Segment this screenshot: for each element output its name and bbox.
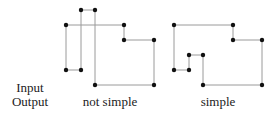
simple-caption: simple — [201, 94, 236, 109]
vertex-dot — [201, 83, 205, 87]
output-label: Output — [12, 94, 49, 109]
vertex-dot — [122, 23, 126, 27]
vertex-dot — [231, 38, 235, 42]
vertex-dot — [201, 53, 205, 57]
vertex-dot — [187, 53, 191, 57]
vertex-dot — [122, 38, 126, 42]
not-simple-polygon — [64, 8, 156, 87]
input-label: Input — [16, 80, 44, 95]
vertex-dot — [79, 8, 83, 12]
vertex-dot — [172, 68, 176, 72]
vertex-dot — [64, 23, 68, 27]
vertex-dot — [172, 23, 176, 27]
vertex-dot — [152, 83, 156, 87]
vertex-dot — [93, 8, 97, 12]
vertex-dot — [231, 23, 235, 27]
polygon-edges — [66, 10, 154, 85]
vertex-dot — [260, 83, 264, 87]
vertex-dot — [64, 68, 68, 72]
vertex-dot — [260, 38, 264, 42]
simple-polygon — [172, 23, 264, 87]
vertex-dot — [79, 68, 83, 72]
vertex-dot — [152, 38, 156, 42]
vertex-dot — [93, 83, 97, 87]
diagram-canvas: Input Output not simple simple — [0, 0, 278, 117]
not-simple-caption: not simple — [83, 94, 138, 109]
vertex-dot — [187, 68, 191, 72]
